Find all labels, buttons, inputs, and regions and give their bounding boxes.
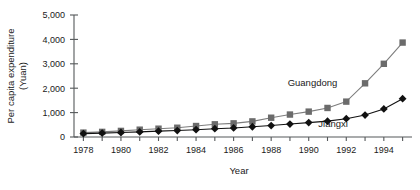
- series-labels-group: GuangdongJiangxi: [288, 77, 348, 128]
- data-point-guangdong: [287, 111, 293, 117]
- x-tick-label: 1988: [261, 145, 281, 155]
- data-point-guangdong: [324, 105, 330, 111]
- y-tick-label: 2,000: [42, 84, 65, 94]
- axis-lines-group: [74, 15, 412, 137]
- x-tick-label: 1986: [224, 145, 244, 155]
- line-chart: Per capita expenditure(Yuan) 01,0002,000…: [0, 0, 420, 190]
- data-point-jiangxi: [305, 119, 313, 127]
- series-label-guangdong: Guangdong: [288, 77, 338, 88]
- x-tick-label: 1980: [111, 145, 131, 155]
- x-tick-label: 1978: [73, 145, 93, 155]
- data-point-jiangxi: [286, 120, 294, 128]
- x-tick-label: 1994: [374, 145, 394, 155]
- y-tick-label: 1,000: [42, 108, 65, 118]
- data-point-jiangxi: [380, 105, 388, 113]
- y-tick-label: 4,000: [42, 35, 65, 45]
- y-tick-label: 3,000: [42, 59, 65, 69]
- series-line-jiangxi: [83, 99, 402, 134]
- y-axis-title-line1: Per capita expenditure: [5, 28, 16, 123]
- y-tick-label: 5,000: [42, 10, 65, 20]
- data-series-group: [79, 39, 406, 137]
- x-tick-label: 1990: [299, 145, 319, 155]
- series-line-guangdong: [83, 43, 402, 133]
- data-point-guangdong: [399, 39, 405, 45]
- x-tick-label: 1992: [336, 145, 356, 155]
- data-point-guangdong: [343, 98, 349, 104]
- x-axis-ticks-group: 197819801982198419861988199019921994: [73, 137, 402, 155]
- data-point-jiangxi: [399, 95, 407, 103]
- data-point-guangdong: [362, 80, 368, 86]
- x-tick-label: 1984: [186, 145, 206, 155]
- data-point-guangdong: [268, 115, 274, 121]
- data-point-guangdong: [381, 61, 387, 67]
- chart-container: Per capita expenditure(Yuan) 01,0002,000…: [0, 0, 420, 190]
- series-label-jiangxi: Jiangxi: [318, 118, 348, 129]
- y-axis-ticks-group: 01,0002,0003,0004,0005,000: [42, 10, 78, 142]
- x-tick-label: 1982: [148, 145, 168, 155]
- data-point-guangdong: [306, 108, 312, 114]
- y-tick-label: 0: [60, 132, 65, 142]
- x-axis-title: Year: [229, 165, 248, 176]
- y-axis-title-group: Per capita expenditure(Yuan): [5, 28, 28, 123]
- data-point-jiangxi: [267, 122, 275, 130]
- y-axis-title-line2: (Yuan): [17, 62, 28, 90]
- data-point-jiangxi: [361, 111, 369, 119]
- x-axis-title-group: Year: [229, 165, 248, 176]
